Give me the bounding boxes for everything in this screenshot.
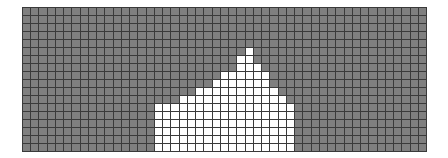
grid-cell-empty xyxy=(303,16,310,23)
grid-cell-empty xyxy=(72,64,79,71)
grid-cell-empty xyxy=(114,72,121,79)
grid-cell-filled xyxy=(270,104,277,111)
grid-cell-empty xyxy=(320,96,327,103)
grid-cell-empty xyxy=(64,40,71,47)
grid-cell-empty xyxy=(147,72,154,79)
grid-cell-empty xyxy=(97,80,104,87)
grid-cell-empty xyxy=(130,136,137,143)
grid-cell-empty xyxy=(163,24,170,31)
grid-cell-empty xyxy=(246,8,253,15)
grid-cell-empty xyxy=(147,136,154,143)
grid-cell-empty xyxy=(295,144,302,151)
grid-cell-empty xyxy=(48,104,55,111)
grid-cell-empty xyxy=(361,88,368,95)
grid-cell-empty xyxy=(361,16,368,23)
grid-cell-empty xyxy=(39,32,46,39)
grid-cell-empty xyxy=(270,32,277,39)
grid-cell-empty xyxy=(402,112,409,119)
grid-cell-empty xyxy=(411,104,418,111)
grid-cell-filled xyxy=(196,120,203,127)
grid-cell-empty xyxy=(279,8,286,15)
grid-cell-empty xyxy=(246,16,253,23)
grid-cell-empty xyxy=(122,104,129,111)
grid-cell-empty xyxy=(328,128,335,135)
grid-cell-filled xyxy=(221,136,228,143)
grid-cell-empty xyxy=(328,64,335,71)
grid-cell-empty xyxy=(105,64,112,71)
grid-cell-filled xyxy=(180,136,187,143)
grid-cell-empty xyxy=(171,40,178,47)
grid-cell-filled xyxy=(188,104,195,111)
grid-cell-empty xyxy=(114,88,121,95)
grid-cell-empty xyxy=(23,80,30,87)
grid-cell-empty xyxy=(105,120,112,127)
grid-cell-empty xyxy=(163,64,170,71)
grid-cell-empty xyxy=(163,48,170,55)
grid-cell-empty xyxy=(303,104,310,111)
grid-cell-empty xyxy=(361,128,368,135)
grid-cell-empty xyxy=(138,8,145,15)
grid-cell-empty xyxy=(114,120,121,127)
grid-cell-empty xyxy=(270,80,277,87)
grid-cell-empty xyxy=(105,56,112,63)
grid-cell-empty xyxy=(188,64,195,71)
grid-cell-filled xyxy=(163,128,170,135)
grid-cell-filled xyxy=(213,144,220,151)
grid-cell-filled xyxy=(196,144,203,151)
grid-cell-empty xyxy=(394,8,401,15)
grid-cell-empty xyxy=(180,32,187,39)
grid-cell-empty xyxy=(114,8,121,15)
grid-cell-empty xyxy=(394,24,401,31)
grid-cell-empty xyxy=(138,72,145,79)
grid-cell-filled xyxy=(180,128,187,135)
grid-cell-empty xyxy=(328,48,335,55)
grid-cell-empty xyxy=(89,64,96,71)
grid-cell-empty xyxy=(328,120,335,127)
grid-cell-empty xyxy=(295,32,302,39)
grid-cell-empty xyxy=(279,72,286,79)
grid-cell-empty xyxy=(138,136,145,143)
grid-cell-empty xyxy=(39,16,46,23)
grid-cell-empty xyxy=(411,56,418,63)
grid-cell-filled xyxy=(279,128,286,135)
grid-cell-empty xyxy=(56,96,63,103)
grid-cell-empty xyxy=(89,72,96,79)
grid-cell-empty xyxy=(23,96,30,103)
grid-cell-filled xyxy=(221,72,228,79)
grid-cell-empty xyxy=(147,104,154,111)
grid-cell-empty xyxy=(213,48,220,55)
grid-cell-empty xyxy=(320,24,327,31)
grid-cell-empty xyxy=(114,96,121,103)
grid-cell-filled xyxy=(262,144,269,151)
grid-cell-empty xyxy=(130,72,137,79)
grid-cell-filled xyxy=(287,144,294,151)
grid-cell-empty xyxy=(411,136,418,143)
grid-cell-empty xyxy=(378,48,385,55)
grid-cell-empty xyxy=(64,64,71,71)
grid-cell-empty xyxy=(336,32,343,39)
grid-cell-empty xyxy=(64,32,71,39)
grid-cell-filled xyxy=(279,112,286,119)
grid-cell-filled xyxy=(229,136,236,143)
grid-cell-empty xyxy=(419,40,426,47)
grid-cell-filled xyxy=(246,104,253,111)
grid-cell-empty xyxy=(345,56,352,63)
grid-cell-empty xyxy=(23,72,30,79)
grid-cell-empty xyxy=(229,24,236,31)
grid-cell-empty xyxy=(402,96,409,103)
grid-cell-empty xyxy=(204,56,211,63)
grid-cell-empty xyxy=(122,96,129,103)
grid-cell-empty xyxy=(369,96,376,103)
grid-cell-empty xyxy=(254,32,261,39)
grid-cell-empty xyxy=(147,48,154,55)
grid-cell-empty xyxy=(196,40,203,47)
grid-cell-empty xyxy=(48,48,55,55)
grid-cell-empty xyxy=(81,80,88,87)
grid-cell-empty xyxy=(386,128,393,135)
grid-cell-empty xyxy=(89,112,96,119)
grid-cell-empty xyxy=(345,112,352,119)
grid-cell-empty xyxy=(147,8,154,15)
grid-cell-empty xyxy=(97,136,104,143)
grid-cell-empty xyxy=(336,88,343,95)
grid-cell-empty xyxy=(138,56,145,63)
